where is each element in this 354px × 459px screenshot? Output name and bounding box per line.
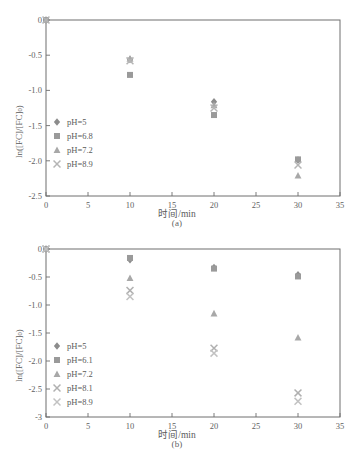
figure-container: 051015202530350-0.5-1.0-1.5-2.0-2.5pH=5p…	[0, 0, 354, 459]
y-tick-label: 0	[38, 244, 42, 254]
series-pH=7.2	[43, 245, 302, 340]
data-point-square	[295, 273, 301, 279]
data-point-triangle	[54, 370, 61, 377]
legend: pH=5pH=6.1pH=7.2pH=8.1pH=8.9	[54, 341, 93, 407]
data-point-square	[295, 156, 301, 162]
data-point-square	[54, 133, 60, 139]
series-pH=5	[43, 16, 301, 164]
data-point-square	[54, 357, 60, 363]
y-axis-title-b-sub: 0	[16, 332, 23, 335]
data-point-cross	[295, 389, 302, 396]
y-axis-title-a: ln([FC]/[FC]0)	[14, 105, 24, 158]
data-point-triangle	[295, 334, 302, 341]
y-tick-label: -2.0	[29, 156, 42, 166]
data-point-cross	[54, 399, 61, 406]
y-axis-title-a-main: ln([FC]/[FC]	[14, 111, 24, 158]
data-point-square	[127, 255, 133, 261]
y-tick-label: -1.0	[29, 85, 42, 95]
data-point-square	[211, 266, 217, 272]
plot-frame	[46, 20, 340, 196]
data-point-cross	[211, 350, 218, 357]
data-point-triangle	[127, 275, 134, 282]
y-tick-label: -2.5	[29, 191, 42, 201]
chart-panel-b: 051015202530350-0.5-1.0-1.5-2.0-2.5-3pH=…	[0, 227, 354, 459]
data-point-cross	[54, 385, 61, 392]
y-tick-label: -0.5	[29, 272, 42, 282]
data-point-square	[211, 112, 217, 118]
legend-label: pH=5	[67, 117, 86, 127]
data-point-cross	[54, 161, 61, 168]
series-pH=6.1	[43, 246, 301, 279]
y-tick-label: -0.5	[29, 50, 42, 60]
legend-label: pH=8.9	[67, 397, 93, 407]
legend-label: pH=8.1	[67, 383, 93, 393]
panel-caption-b: (b)	[0, 439, 354, 449]
data-point-diamond	[54, 342, 60, 350]
y-tick-label: 0	[38, 15, 42, 25]
y-axis-title-b-tail: )	[14, 329, 24, 332]
legend-label: pH=7.2	[67, 369, 93, 379]
data-point-cross	[295, 398, 302, 405]
legend-label: pH=5	[67, 341, 86, 351]
scatter-plot-b: 051015202530350-0.5-1.0-1.5-2.0-2.5-3pH=…	[0, 227, 354, 432]
data-point-cross	[127, 293, 134, 300]
series-pH=5	[43, 245, 301, 278]
data-point-triangle	[54, 146, 61, 153]
data-point-triangle	[295, 172, 302, 179]
y-tick-label: -1.0	[29, 300, 42, 310]
y-tick-label: -3	[35, 412, 42, 422]
scatter-plot-a: 051015202530350-0.5-1.0-1.5-2.0-2.5pH=5p…	[0, 0, 354, 210]
legend-label: pH=7.2	[67, 145, 93, 155]
data-point-cross	[127, 287, 134, 294]
y-axis-title-a-tail: )	[14, 105, 24, 108]
y-tick-label: -2.0	[29, 356, 42, 366]
y-axis-title-b: ln([FC]/[FC]0)	[14, 329, 24, 382]
legend-label: pH=8.9	[67, 159, 93, 169]
y-tick-label: -1.5	[29, 121, 42, 131]
y-axis-title-b-main: ln([FC]/[FC]	[14, 335, 24, 382]
y-axis-title-a-sub: 0	[16, 108, 23, 111]
legend-label: pH=6.8	[67, 131, 93, 141]
data-point-triangle	[211, 310, 218, 317]
legend-label: pH=6.1	[67, 355, 93, 365]
data-point-square	[127, 72, 133, 78]
legend: pH=5pH=6.8pH=7.2pH=8.9	[54, 117, 93, 169]
y-tick-label: -2.5	[29, 384, 42, 394]
y-tick-label: -1.5	[29, 328, 42, 338]
chart-panel-a: 051015202530350-0.5-1.0-1.5-2.0-2.5pH=5p…	[0, 0, 354, 232]
data-point-diamond	[54, 118, 60, 126]
series-pH=8.9	[43, 246, 302, 405]
